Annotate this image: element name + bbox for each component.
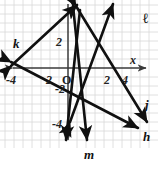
plot-canvas xyxy=(0,0,158,170)
y-tick--2: -2 xyxy=(55,83,65,95)
line-label-m: m xyxy=(84,148,94,161)
line-label-k: k xyxy=(13,37,20,50)
line-label-l: ℓ xyxy=(143,12,148,26)
x-axis-label: x xyxy=(130,54,136,66)
y-tick-2: 2 xyxy=(56,36,62,48)
line-label-j: j xyxy=(145,98,149,111)
x-tick--4: -4 xyxy=(6,74,16,86)
x-tick-4: 4 xyxy=(122,74,128,86)
line-label-h: h xyxy=(143,130,150,143)
x-tick-2: 2 xyxy=(104,74,110,86)
x-tick--2: 2 xyxy=(46,74,52,86)
line-m xyxy=(73,6,87,140)
coordinate-plane-figure: k ℓ j h m x O -4 2 2 4 2 -2 -4 xyxy=(0,0,158,170)
y-tick--4: -4 xyxy=(52,118,62,130)
